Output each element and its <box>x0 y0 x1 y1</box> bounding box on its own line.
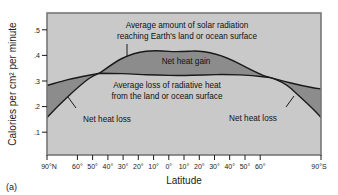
solar-radiation-annotation-line1: Average amount of solar radiation <box>126 21 249 30</box>
radiation-balance-chart: .5 .4 .3 .2 .1 Calories per cm² per minu… <box>0 0 338 195</box>
x-tick-label-0: 90°N <box>41 163 57 170</box>
radiative-loss-annotation-line2: from the land or ocean surface <box>111 92 222 101</box>
x-tick-label-11: 40° <box>224 163 235 170</box>
x-tick-label-8: 10° <box>179 163 190 170</box>
y-axis-title: Calories per cm² per minute <box>7 22 18 146</box>
x-tick-label-1: 60° <box>72 163 83 170</box>
solar-radiation-annotation-line2: reaching Earth's land or ocean surface <box>117 32 257 41</box>
net-heat-loss-right-annotation: Net heat loss <box>229 114 277 123</box>
x-tick-label-9: 20° <box>194 163 205 170</box>
y-tick-label-5: .5 <box>34 27 40 34</box>
figure-container: .5 .4 .3 .2 .1 Calories per cm² per minu… <box>0 0 338 195</box>
y-tick-label-3: .3 <box>34 78 40 85</box>
x-tick-label-7: 0° <box>165 163 172 170</box>
net-heat-gain-annotation: Net heat gain <box>162 57 211 66</box>
net-heat-loss-left-annotation: Net heat loss <box>83 115 131 124</box>
x-tick-label-5: 20° <box>133 163 144 170</box>
x-tick-label-10: 30° <box>209 163 220 170</box>
x-tick-label-3: 40° <box>103 163 114 170</box>
x-tick-label-6: 10° <box>148 163 159 170</box>
x-tick-label-2: 50° <box>87 163 98 170</box>
x-tick-label-4: 30° <box>118 163 129 170</box>
figure-caption: (a) <box>6 182 17 192</box>
x-tick-label-13: 60° <box>255 163 266 170</box>
y-tick-label-1: .1 <box>34 129 40 136</box>
radiative-loss-annotation-line1: Average loss of radiative heat <box>113 81 221 90</box>
x-tick-label-12: 50° <box>240 163 251 170</box>
x-axis-title: Latitude <box>166 175 202 186</box>
y-tick-label-2: .2 <box>34 103 40 110</box>
x-tick-label-14: 90°S <box>311 163 327 170</box>
y-tick-label-4: .4 <box>34 52 40 59</box>
